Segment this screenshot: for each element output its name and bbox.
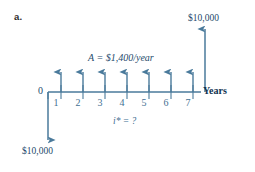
years-axis-label: Years bbox=[203, 85, 227, 96]
tick-number-1: 1 bbox=[50, 97, 62, 108]
tick-number-4: 4 bbox=[116, 97, 128, 108]
tick-number-6: 6 bbox=[160, 97, 172, 108]
tick-number-7: 7 bbox=[182, 97, 194, 108]
annuity-amount-label: A = $1,400/year bbox=[88, 52, 154, 63]
origin-label: 0 bbox=[38, 85, 43, 96]
top-amount-label: $10,000 bbox=[188, 13, 219, 23]
part-label: a. bbox=[14, 11, 22, 22]
cash-flow-diagram: a. $10,000 A = $1,400/year i* = ? 0 Year… bbox=[0, 0, 255, 172]
tick-number-5: 5 bbox=[138, 97, 150, 108]
interest-rate-label: i* = ? bbox=[113, 116, 136, 126]
tick-number-2: 2 bbox=[72, 97, 84, 108]
bottom-amount-label: $10,000 bbox=[22, 146, 53, 156]
tick-number-3: 3 bbox=[94, 97, 106, 108]
